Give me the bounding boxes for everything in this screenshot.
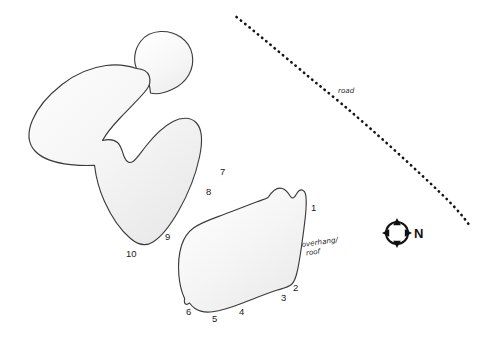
point-label-3: 3	[281, 292, 286, 303]
point-label-9: 9	[165, 231, 170, 242]
north-arrow: N	[382, 218, 423, 248]
point-label-10: 10	[126, 248, 137, 259]
overhang-roof-line2: roof	[305, 246, 322, 257]
northern-main-body	[29, 65, 202, 245]
overhang-roof-label: overhang/ roof	[301, 235, 341, 258]
point-label-2: 2	[293, 282, 298, 293]
northern-rockshelter-feature	[29, 31, 202, 244]
compass-ring-icon	[386, 222, 408, 244]
point-label-1: 1	[311, 202, 316, 213]
compass-north-letter: N	[414, 226, 423, 241]
point-label-8: 8	[206, 186, 211, 197]
site-sketch-map: road overhang/ roof 1 2 3 4 5 6 7 8 9 10…	[0, 0, 491, 343]
point-label-7: 7	[220, 166, 225, 177]
point-label-4: 4	[239, 306, 244, 317]
point-label-6: 6	[186, 306, 191, 317]
point-label-5: 5	[212, 313, 217, 324]
road-label: road	[338, 86, 355, 95]
southern-rockshelter-feature	[179, 188, 307, 312]
southern-main-body	[179, 188, 307, 312]
overhang-roof-line1: overhang/	[301, 235, 340, 249]
